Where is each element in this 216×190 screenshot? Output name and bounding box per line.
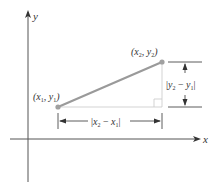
- y-axis-label: y: [32, 10, 38, 22]
- horizontal-dim-right-arrow-icon: [154, 119, 161, 124]
- horizontal-distance-label: |x2 − x1|: [91, 116, 121, 128]
- point-p1-label: (x1, y1): [33, 91, 60, 103]
- point-p2-label: (x2, y2): [131, 46, 158, 58]
- point-p2: [159, 59, 164, 64]
- x-axis-label: x: [202, 133, 208, 145]
- vertical-dim-bottom-arrow-icon: [183, 99, 188, 106]
- point-p1: [55, 104, 60, 109]
- right-angle-marker: [154, 99, 162, 107]
- vertical-dim-top-arrow-icon: [183, 63, 188, 70]
- vertical-distance-label: |y2 − y1|: [166, 79, 196, 91]
- segment-p1-p2: [58, 62, 162, 107]
- horizontal-dim-left-arrow-icon: [59, 119, 66, 124]
- distance-diagram: y x (x1, y1) (x2, y2) |x2 − x1| |y2 − y1…: [0, 0, 216, 190]
